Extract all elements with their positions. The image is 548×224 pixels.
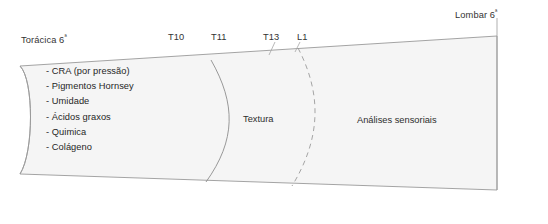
segment-label-textura: Textura (243, 115, 274, 124)
list-item: - Colágeno (46, 140, 134, 155)
list-item: - Pigmentos Hornsey (46, 79, 134, 94)
end-label-right-ordinal: ª (495, 8, 497, 15)
vertebra-label-t11: T11 (211, 33, 227, 42)
end-label-left: Torácica 6ª (21, 34, 67, 45)
list-item: - CRA (por pressão) (46, 64, 134, 79)
segment-label-sensorial: Análises sensoriais (357, 116, 437, 125)
end-label-left-text: Torácica 6 (21, 35, 64, 45)
diagram-canvas: Torácica 6ª Lombar 6ª T10 T11 T13 L1 - C… (0, 0, 548, 224)
end-label-left-ordinal: ª (64, 33, 66, 40)
vertebra-label-l1: L1 (297, 33, 308, 42)
list-item: - Quimica (46, 125, 134, 140)
list-item: - Ácidos graxos (46, 110, 134, 125)
vertebra-label-t10: T10 (168, 33, 184, 42)
end-label-right-text: Lombar 6 (455, 10, 495, 20)
list-item: - Umidade (46, 94, 134, 109)
end-label-right: Lombar 6ª (455, 9, 497, 20)
vertebra-label-t13: T13 (263, 33, 279, 42)
segment-list-analyses: - CRA (por pressão) - Pigmentos Hornsey … (46, 64, 134, 155)
